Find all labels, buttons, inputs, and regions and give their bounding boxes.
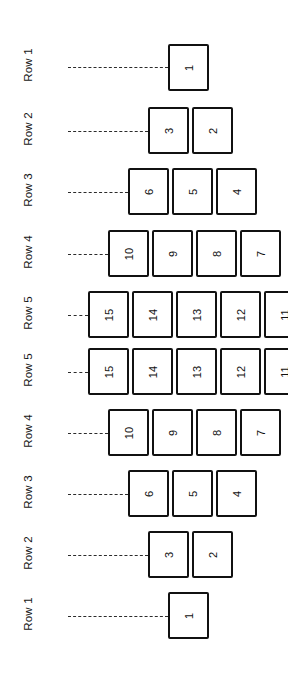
- node-box: 12: [220, 348, 261, 395]
- node-box: 11: [264, 291, 288, 338]
- node-box-label: 7: [255, 429, 267, 435]
- leader-row3-bottom: [68, 494, 128, 495]
- node-box-label: 14: [147, 308, 159, 320]
- node-box: 15: [88, 348, 129, 395]
- leader-row4-top: [68, 254, 108, 255]
- node-box: 3: [148, 531, 189, 578]
- node-box: 1: [168, 44, 209, 91]
- node-box-label: 3: [163, 551, 175, 557]
- node-box: 12: [220, 291, 261, 338]
- row-label: Row 5: [22, 342, 34, 398]
- leader-row1-bottom: [68, 616, 168, 617]
- node-box: 6: [128, 470, 169, 517]
- node-box-label: 6: [143, 188, 155, 194]
- pyramid-diagram: Row 1Row 2Row 3Row 4Row 5Row 5Row 4Row 3…: [0, 0, 288, 674]
- row-label: Row 1: [22, 37, 34, 93]
- node-box-label: 11: [279, 309, 289, 320]
- node-box-label: 11: [279, 366, 289, 377]
- node-box: 3: [148, 107, 189, 154]
- node-box-label: 9: [167, 429, 179, 435]
- node-box: 14: [132, 291, 173, 338]
- node-box: 9: [152, 409, 193, 456]
- node-box: 7: [240, 230, 281, 277]
- row-label: Row 1: [22, 586, 34, 642]
- node-box-label: 6: [143, 490, 155, 496]
- node-box: 8: [196, 409, 237, 456]
- node-box: 2: [192, 531, 233, 578]
- node-box-label: 12: [235, 365, 247, 377]
- node-box: 1: [168, 592, 209, 639]
- row-label: Row 3: [22, 162, 34, 218]
- node-box: 7: [240, 409, 281, 456]
- node-box-label: 7: [255, 250, 267, 256]
- node-box-label: 14: [147, 365, 159, 377]
- node-box: 10: [108, 230, 149, 277]
- node-box-label: 1: [183, 64, 195, 70]
- node-box: 10: [108, 409, 149, 456]
- leader-row1-top: [68, 67, 168, 68]
- row-label: Row 4: [22, 403, 34, 459]
- node-box: 13: [176, 348, 217, 395]
- node-box: 4: [216, 168, 257, 215]
- node-box-label: 15: [103, 308, 115, 320]
- node-box-label: 1: [183, 612, 195, 618]
- node-box-label: 4: [231, 490, 243, 496]
- node-box: 11: [264, 348, 288, 395]
- node-box: 5: [172, 168, 213, 215]
- node-box-label: 2: [207, 551, 219, 557]
- node-box-label: 15: [103, 365, 115, 377]
- leader-row3-top: [68, 192, 128, 193]
- row-label: Row 3: [22, 464, 34, 520]
- node-box-label: 13: [191, 365, 203, 377]
- leader-row2-top: [68, 131, 148, 132]
- row-label: Row 4: [22, 224, 34, 280]
- leader-row5-bottom: [68, 372, 88, 373]
- row-label: Row 2: [22, 525, 34, 581]
- node-box: 4: [216, 470, 257, 517]
- node-box: 6: [128, 168, 169, 215]
- node-box-label: 10: [123, 426, 135, 438]
- node-box: 9: [152, 230, 193, 277]
- node-box-label: 13: [191, 308, 203, 320]
- node-box-label: 5: [187, 490, 199, 496]
- node-box: 5: [172, 470, 213, 517]
- node-box-label: 12: [235, 308, 247, 320]
- leader-row4-bottom: [68, 433, 108, 434]
- node-box: 14: [132, 348, 173, 395]
- row-label: Row 5: [22, 285, 34, 341]
- node-box-label: 3: [163, 127, 175, 133]
- node-box: 2: [192, 107, 233, 154]
- node-box-label: 2: [207, 127, 219, 133]
- node-box-label: 10: [123, 247, 135, 259]
- node-box-label: 8: [211, 429, 223, 435]
- node-box-label: 9: [167, 250, 179, 256]
- row-label: Row 2: [22, 101, 34, 157]
- node-box: 8: [196, 230, 237, 277]
- node-box-label: 5: [187, 188, 199, 194]
- node-box: 15: [88, 291, 129, 338]
- node-box-label: 8: [211, 250, 223, 256]
- node-box: 13: [176, 291, 217, 338]
- leader-row5-top: [68, 315, 88, 316]
- leader-row2-bottom: [68, 555, 148, 556]
- node-box-label: 4: [231, 188, 243, 194]
